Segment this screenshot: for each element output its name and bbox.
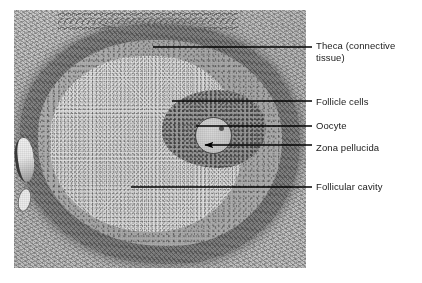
label-follicle-cells: Follicle cells xyxy=(316,96,420,108)
label-oocyte: Oocyte xyxy=(316,120,420,132)
label-zona-pellucida: Zona pellucida xyxy=(316,142,420,154)
micrograph-image xyxy=(14,10,306,268)
labeled-micrograph-figure: Theca (connective tissue) Follicle cells… xyxy=(0,0,422,283)
film-grain-overlay xyxy=(14,10,306,268)
label-theca-connective-tissue: Theca (connective tissue) xyxy=(316,40,420,63)
label-follicular-cavity: Follicular cavity xyxy=(316,181,420,193)
